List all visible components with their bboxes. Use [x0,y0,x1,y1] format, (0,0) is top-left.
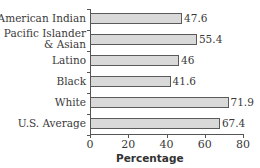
value-label: 71.9 [231,97,254,108]
y-axis-tick [87,51,90,52]
category-label: American Indian [0,13,86,24]
category-label: Latino [52,55,86,66]
y-axis-line [90,9,91,135]
y-axis-tick [87,114,90,115]
y-axis-tick [87,72,90,73]
bar [91,34,197,45]
value-label: 67.4 [222,118,245,129]
bar [91,76,171,87]
category-label: Pacific Islander& Asian [4,28,86,49]
x-axis-title: Percentage [116,152,184,164]
y-axis-tick [87,30,90,31]
value-label: 55.4 [199,34,222,45]
bar [91,118,220,129]
x-tick-label: 40 [155,138,179,151]
y-axis-tick [87,9,90,10]
x-tick-label: 80 [231,138,255,151]
category-label: Black [56,76,86,87]
bar [91,97,229,108]
value-label: 47.6 [184,13,207,24]
y-axis-tick [87,93,90,94]
x-tick-label: 0 [78,138,102,151]
x-tick-label: 60 [193,138,217,151]
bar [91,55,179,66]
value-label: 46 [181,55,194,66]
category-label: White [55,97,86,108]
x-tick-label: 20 [116,138,140,151]
category-label: U.S. Average [18,118,86,129]
value-label: 41.6 [173,76,196,87]
horizontal-bar-chart: American Indian47.6Pacific Islander& Asi… [0,0,260,168]
bar [91,13,182,24]
